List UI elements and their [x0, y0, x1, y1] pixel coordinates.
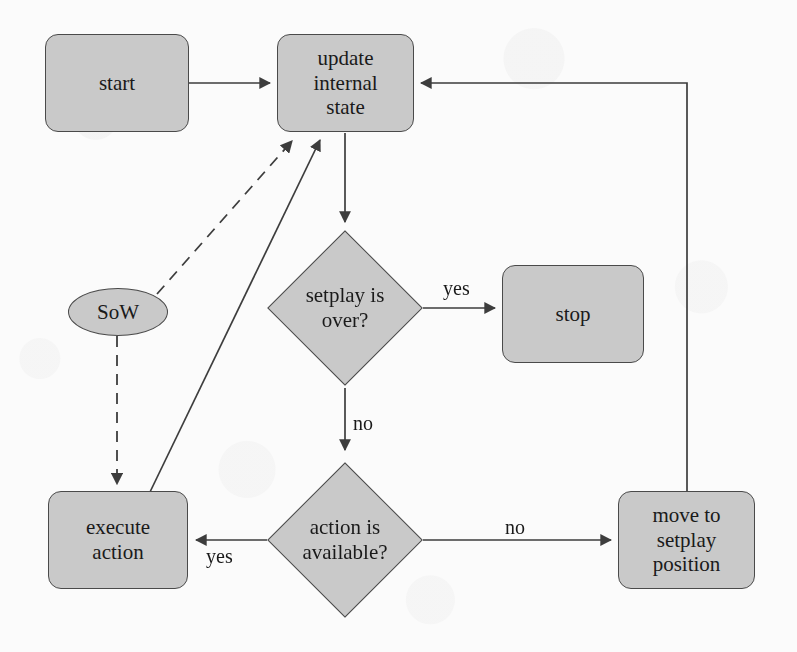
node-action-is-available[interactable]: action is available? [290, 485, 400, 595]
edge-label-setplay-no: no [353, 412, 373, 435]
node-sow[interactable]: SoW [68, 288, 168, 336]
edge-label-action-yes: yes [206, 545, 233, 568]
node-update-internal-state-label: update internal state [307, 46, 383, 120]
node-stop-label: stop [549, 302, 596, 327]
node-sow-label: SoW [91, 300, 145, 325]
node-move-to-setplay-position[interactable]: move to setplay position [618, 491, 755, 589]
node-execute-action-label: execute action [80, 515, 156, 565]
node-setplay-is-over-label: setplay is over? [247, 253, 443, 363]
node-setplay-is-over[interactable]: setplay is over? [290, 253, 400, 363]
node-start-label: start [93, 71, 141, 96]
edge-label-setplay-yes: yes [443, 277, 470, 300]
node-move-to-setplay-position-label: move to setplay position [646, 503, 726, 577]
edge-label-action-no: no [505, 516, 525, 539]
node-execute-action[interactable]: execute action [48, 491, 188, 589]
node-stop[interactable]: stop [502, 265, 644, 363]
node-update-internal-state[interactable]: update internal state [277, 34, 414, 132]
node-action-is-available-label: action is available? [242, 485, 448, 595]
node-start[interactable]: start [45, 34, 189, 132]
flowchart-canvas: stop --> action is available? --> execut… [0, 0, 797, 652]
